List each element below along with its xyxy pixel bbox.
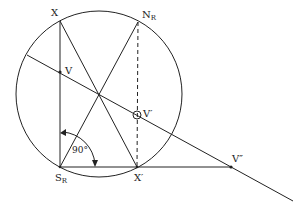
angle-label: 90° xyxy=(72,145,88,155)
label-v: V xyxy=(64,65,73,76)
label-x: X xyxy=(51,7,59,18)
point-v xyxy=(58,70,61,73)
point-xprime xyxy=(136,166,139,169)
arrowhead-down-icon xyxy=(92,160,98,167)
label-nr: NR xyxy=(142,9,157,22)
label-vprime: V′ xyxy=(142,108,153,119)
point-vdoubleprime xyxy=(229,165,232,168)
label-sr: SR xyxy=(55,172,68,185)
arrowhead-up-icon xyxy=(60,129,66,136)
dashed-line-nr-xprime xyxy=(137,22,138,167)
label-vdoubleprime: V″ xyxy=(231,153,243,164)
point-sr xyxy=(59,166,62,169)
diagram-canvas: X NR V V′ V″ SR X′ 90° xyxy=(0,0,308,213)
label-xprime: X′ xyxy=(134,172,144,183)
